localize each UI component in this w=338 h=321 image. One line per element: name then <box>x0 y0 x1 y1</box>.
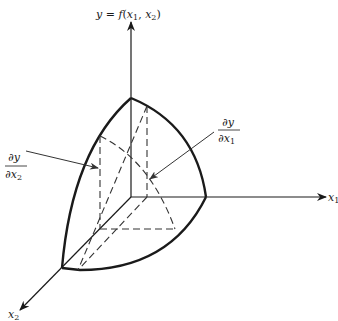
diagram-canvas: y = f(x1, x2) x1 x2 ∂y ∂x1 ∂y ∂x2 <box>0 0 338 321</box>
x2-label-sub: 2 <box>14 313 19 321</box>
surface-base-curve <box>62 197 206 270</box>
y-label-close: ) <box>156 8 160 21</box>
annotation-dy-dx2: ∂y ∂x2 <box>5 151 27 182</box>
dy-dx1-denominator: ∂x <box>218 132 231 145</box>
dashed-section-x2 <box>78 106 147 270</box>
y-label-sep: , <box>138 8 145 21</box>
dy-dx1-numerator: ∂y <box>222 116 235 129</box>
leader-dy-dx1 <box>150 132 214 179</box>
x2-axis <box>20 197 131 310</box>
y-label-eq: = <box>102 8 118 21</box>
dy-dx1-denominator-sub: 1 <box>230 137 235 146</box>
dy-dx2-denominator-sub: 2 <box>17 173 22 182</box>
svg-text:∂x1: ∂x1 <box>218 132 235 146</box>
dashed-section-x1 <box>100 136 175 229</box>
dashed-base-x2-parallel <box>78 197 147 270</box>
y-axis-label: y = f(x1, x2) <box>95 8 161 22</box>
dy-dx2-denominator: ∂x <box>5 168 18 181</box>
dy-dx2-numerator: ∂y <box>8 151 21 164</box>
x1-label-sub: 1 <box>334 196 338 205</box>
surface-edge-x2 <box>62 98 131 268</box>
annotation-dy-dx1: ∂y ∂x1 <box>218 116 240 146</box>
surface-edge-x1 <box>131 98 206 197</box>
x2-axis-label: x2 <box>8 308 19 321</box>
svg-text:∂x2: ∂x2 <box>5 168 22 182</box>
x1-axis-label: x1 <box>328 191 338 205</box>
